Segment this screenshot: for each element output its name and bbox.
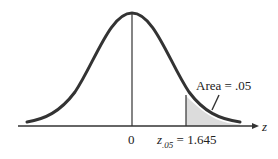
axis-arrow-icon	[252, 123, 259, 129]
area-label: Area = .05	[196, 79, 251, 92]
center-tick-label: 0	[128, 133, 135, 146]
area-pointer-line	[212, 95, 219, 110]
bell-curve	[27, 13, 240, 122]
critical-value-label: z.05 = 1.645	[157, 133, 216, 150]
critical-value-number: = 1.645	[177, 132, 217, 147]
z-axis-label: z	[262, 120, 267, 133]
z-subscript: .05	[162, 140, 173, 150]
